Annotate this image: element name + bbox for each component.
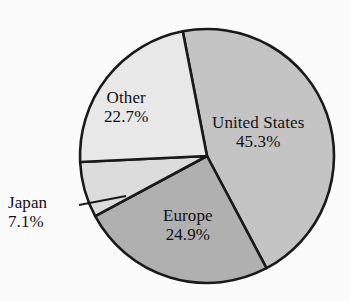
slice-value-united-states: 45.3% bbox=[212, 132, 304, 151]
slice-value-japan: 7.1% bbox=[8, 212, 47, 231]
slice-value-europe: 24.9% bbox=[163, 225, 213, 244]
slice-name-united-states: United States bbox=[212, 113, 304, 132]
slice-value-other: 22.7% bbox=[104, 107, 148, 126]
slice-name-other: Other bbox=[104, 88, 148, 107]
slice-label-japan: Japan 7.1% bbox=[8, 193, 47, 231]
pie-slices-group bbox=[80, 29, 334, 283]
slice-label-other: Other 22.7% bbox=[104, 88, 148, 126]
pie-chart: United States 45.3% Europe 24.9% Other 2… bbox=[0, 0, 350, 301]
slice-name-europe: Europe bbox=[163, 206, 213, 225]
slice-name-japan: Japan bbox=[8, 193, 47, 212]
slice-label-europe: Europe 24.9% bbox=[163, 206, 213, 244]
slice-label-united-states: United States 45.3% bbox=[212, 113, 304, 151]
